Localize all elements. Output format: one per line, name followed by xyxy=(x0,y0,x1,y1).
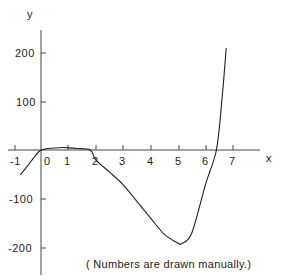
x-tick-label: 3 xyxy=(119,155,126,167)
x-tick-label: 1 xyxy=(64,155,71,167)
y-axis-label: y xyxy=(27,8,33,20)
x-ticks: -1 0 1 2 3 4 5 6 7 xyxy=(10,145,236,167)
x-tick-label: 0 xyxy=(44,155,51,167)
x-tick-label: 5 xyxy=(175,155,182,167)
y-tick-label: -100 xyxy=(9,193,33,205)
y-tick-label: -200 xyxy=(8,242,32,254)
x-tick-label: 4 xyxy=(147,155,154,167)
y-tick-label: 100 xyxy=(16,96,36,108)
chart: y x 200 100 -100 -200 -1 0 1 2 3 4 5 6 7… xyxy=(0,0,282,280)
x-tick-label: 6 xyxy=(202,155,209,167)
footnote: ( Numbers are drawn manually.) xyxy=(86,258,251,270)
x-tick-label: 7 xyxy=(229,155,236,167)
x-axis-label: x xyxy=(266,152,272,164)
y-tick-label: 200 xyxy=(15,47,35,59)
x-tick-label: -1 xyxy=(10,155,21,167)
